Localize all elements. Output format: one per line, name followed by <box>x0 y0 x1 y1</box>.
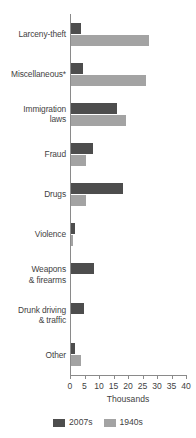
category-label-line: Weapons <box>31 264 66 274</box>
category-label: Miscellaneous* <box>0 54 66 94</box>
bar-chart: Larceny-theftMiscellaneous*Immigrationla… <box>0 0 196 438</box>
bar-group <box>71 14 196 54</box>
category-label-line: Fraud <box>45 149 66 159</box>
x-tick <box>114 375 115 379</box>
category-label-line: Miscellaneous* <box>11 69 66 79</box>
category-label: Violence <box>0 214 66 254</box>
bar-2007s <box>71 343 75 354</box>
category-label-line: & firearms <box>29 275 66 285</box>
bar-group <box>71 335 196 375</box>
chart-row: Larceny-theft <box>0 14 196 54</box>
x-tick <box>99 375 100 379</box>
chart-row: Immigrationlaws <box>0 94 196 134</box>
category-label: Immigrationlaws <box>0 94 66 134</box>
bar-group <box>71 255 196 295</box>
bar-1940s <box>71 155 86 166</box>
chart-row: Other <box>0 335 196 375</box>
x-tick <box>85 375 86 379</box>
category-label-line: Immigration <box>23 104 66 114</box>
category-label-line: laws <box>50 114 66 124</box>
category-label: Weapons& firearms <box>0 255 66 295</box>
legend-item-1940s: 1940s <box>104 417 143 428</box>
bar-group <box>71 214 196 254</box>
plot-area: Larceny-theftMiscellaneous*Immigrationla… <box>0 0 196 375</box>
bar-1940s <box>71 235 73 246</box>
bar-2007s <box>71 143 93 154</box>
chart-row: Fraud <box>0 134 196 174</box>
bar-1940s <box>71 115 126 126</box>
legend-label: 1940s <box>120 417 143 428</box>
bar-group <box>71 174 196 214</box>
x-axis-tick-labels: 0510152025303540 <box>0 381 196 393</box>
chart-legend: 2007s1940s <box>0 417 196 428</box>
legend-swatch-icon <box>53 419 65 427</box>
x-axis-ticks <box>70 375 186 379</box>
category-label: Other <box>0 335 66 375</box>
category-label: Larceny-theft <box>0 14 66 54</box>
chart-row: Miscellaneous* <box>0 54 196 94</box>
legend-label: 2007s <box>69 417 92 428</box>
chart-row: Drugs <box>0 174 196 214</box>
legend-swatch-icon <box>104 419 116 427</box>
x-tick <box>143 375 144 379</box>
chart-row: Weapons& firearms <box>0 255 196 295</box>
bar-group <box>71 295 196 335</box>
bar-1940s <box>71 195 86 206</box>
x-tick <box>172 375 173 379</box>
bar-2007s <box>71 23 81 34</box>
bar-1940s <box>71 355 81 366</box>
chart-row: Drunk driving& traffic <box>0 295 196 335</box>
bar-rows: Larceny-theftMiscellaneous*Immigrationla… <box>0 14 196 375</box>
x-tick-label: 40 <box>175 381 196 392</box>
category-label: Fraud <box>0 134 66 174</box>
bar-2007s <box>71 183 123 194</box>
bar-group <box>71 54 196 94</box>
category-label-line: Other <box>46 350 66 360</box>
x-axis-title: Thousands <box>70 394 186 405</box>
category-label-line: Larceny-theft <box>18 29 66 39</box>
legend-item-2007s: 2007s <box>53 417 92 428</box>
x-tick <box>128 375 129 379</box>
bar-1940s <box>71 35 149 46</box>
category-label: Drunk driving& traffic <box>0 295 66 335</box>
bar-2007s <box>71 303 84 314</box>
bar-group <box>71 94 196 134</box>
category-label: Drugs <box>0 174 66 214</box>
bar-1940s <box>71 75 146 86</box>
x-tick <box>157 375 158 379</box>
x-tick <box>186 375 187 379</box>
bar-2007s <box>71 103 117 114</box>
category-label-line: Drugs <box>44 189 66 199</box>
category-label-line: & traffic <box>39 315 66 325</box>
category-label-line: Violence <box>35 229 66 239</box>
bar-2007s <box>71 263 94 274</box>
bar-group <box>71 134 196 174</box>
category-label-line: Drunk driving <box>18 305 66 315</box>
x-tick <box>70 375 71 379</box>
bar-2007s <box>71 223 75 234</box>
chart-row: Violence <box>0 214 196 254</box>
bar-2007s <box>71 63 83 74</box>
